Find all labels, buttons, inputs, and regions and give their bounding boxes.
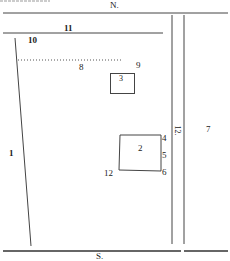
label-1: 1 [9,149,14,158]
label-8: 8 [79,63,84,72]
north-label: N. [110,1,119,10]
label-5: 5 [162,151,167,160]
label-6: 6 [162,168,167,177]
label-4: 4 [162,134,167,143]
south-label: S. [96,252,103,261]
label-2: 2 [138,144,143,153]
label-10: 10 [28,36,37,45]
label-3: 3 [119,74,123,83]
label-9: 9 [136,61,141,70]
box-2 [119,135,161,171]
label-7: 7 [206,125,211,134]
line-1 [15,38,31,246]
label-12-road: 12. [173,126,182,136]
label-12: 12 [104,169,113,178]
label-11: 11 [64,24,73,33]
